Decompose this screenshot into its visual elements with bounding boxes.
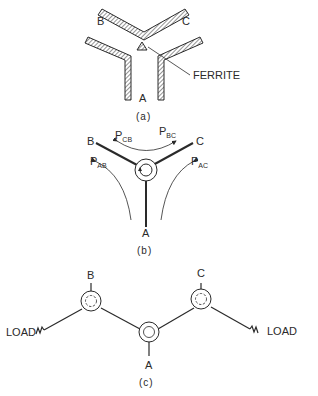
waveguide-wall-top [98, 9, 189, 40]
port-a-label-b: A [142, 227, 150, 239]
circulator-diagram: B C A FERRITE (a) B C A PCB PBC PAB PAC … [0, 0, 318, 396]
figure-a-waveguide-junction: B C A FERRITE (a) [85, 9, 240, 122]
line-b-a [101, 308, 140, 329]
port-a-label-a: A [139, 92, 147, 104]
circulator-c [191, 289, 211, 309]
flow-arc-left [95, 161, 131, 220]
caption-c: (c) [139, 377, 154, 388]
ferrite-disk-outer [135, 159, 157, 181]
port-c-label-c: C [197, 267, 205, 279]
port-b-label-a: B [97, 15, 104, 27]
caption-b: (b) [137, 245, 152, 256]
figure-c-cascaded-circulators: LOAD LOAD B C A (c) [6, 267, 297, 388]
line-load-left [44, 309, 82, 330]
port-c-label-a: C [182, 15, 190, 27]
load-resistor-right-icon [250, 326, 258, 333]
line-a-c [158, 308, 194, 329]
port-b-label-b: B [87, 135, 94, 147]
load-left-label: LOAD [6, 326, 36, 338]
label-p-bc: PBC [159, 125, 176, 139]
line-load-right [211, 307, 250, 329]
ferrite-label: FERRITE [193, 69, 240, 81]
label-p-ac: PAC [191, 155, 208, 169]
arm-c [153, 143, 193, 165]
ferrite-icon [137, 42, 147, 50]
label-p-ab: PAB [90, 155, 107, 169]
port-a-label-c: A [145, 359, 153, 371]
port-c-label-b: C [196, 135, 204, 147]
load-right-label: LOAD [267, 325, 297, 337]
circulator-a [139, 322, 159, 342]
caption-a: (a) [136, 111, 151, 122]
label-p-cb: PCB [115, 129, 132, 143]
figure-b-circulator-schematic: B C A PCB PBC PAB PAC (b) [87, 125, 208, 256]
load-resistor-left-icon [36, 327, 44, 334]
port-b-label-c: B [87, 269, 94, 281]
flow-arc-right [161, 161, 194, 220]
waveguide-wall-left [85, 37, 131, 100]
circulator-b [81, 291, 101, 311]
